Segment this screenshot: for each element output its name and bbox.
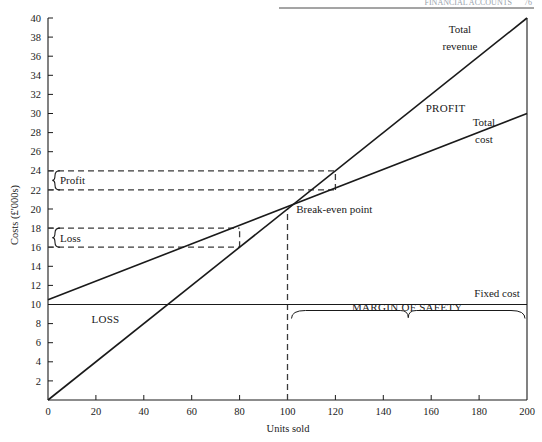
break-even-point-label: Break-even point — [296, 203, 372, 215]
y-tick-label: 16 — [31, 242, 42, 253]
y-tick-label: 24 — [31, 165, 42, 176]
y-tick-label: 30 — [31, 108, 42, 119]
y-tick-label: 12 — [31, 280, 42, 291]
x-tick-label: 120 — [328, 406, 344, 417]
y-tick-label: 2 — [36, 376, 41, 387]
x-tick-label: 60 — [186, 406, 197, 417]
x-tick-label: 40 — [139, 406, 150, 417]
loss-region-label: LOSS — [91, 313, 119, 325]
margin-of-safety-label: MARGIN OF SAFETY — [352, 301, 463, 313]
profit-region-label: PROFIT — [426, 102, 466, 114]
y-tick-label: 8 — [36, 318, 41, 329]
header-page-number: 76 — [524, 0, 532, 7]
x-tick-label: 20 — [91, 406, 102, 417]
break-even-chart: FINANCIAL ACCOUNTS 76 246810121416182022… — [0, 0, 542, 442]
total-revenue-label-line2: revenue — [443, 40, 478, 52]
y-tick-label: 10 — [31, 299, 42, 310]
y-tick-label: 22 — [31, 185, 42, 196]
y-tick-label: 14 — [31, 261, 42, 272]
loss-bracket-label: Loss — [60, 232, 81, 244]
y-tick-label: 4 — [36, 356, 42, 367]
x-tick-label: 140 — [375, 406, 391, 417]
x-tick-label: 160 — [423, 406, 439, 417]
total-cost-label-line2: cost — [475, 133, 493, 145]
y-tick-label: 26 — [31, 146, 42, 157]
total-cost-label-line1: Total — [473, 116, 495, 128]
header-running-title: FINANCIAL ACCOUNTS — [425, 0, 513, 7]
x-tick-label: 180 — [471, 406, 487, 417]
x-tick-label: 100 — [280, 406, 296, 417]
x-tick-label: 200 — [519, 406, 535, 417]
total-revenue-label-line1: Total — [449, 23, 471, 35]
chart-background — [0, 0, 542, 442]
y-tick-label: 28 — [31, 127, 42, 138]
y-tick-label: 38 — [31, 32, 42, 43]
y-tick-label: 40 — [31, 13, 42, 24]
x-tick-label: 80 — [234, 406, 245, 417]
profit-bracket-label: Profit — [60, 174, 85, 186]
y-tick-label: 32 — [31, 89, 42, 100]
y-tick-label: 6 — [36, 337, 41, 348]
x-axis-title: Units sold — [267, 423, 311, 434]
y-axis-title: Costs (£'000s) — [9, 185, 21, 245]
fixed-cost-label: Fixed cost — [474, 287, 520, 299]
y-tick-label: 36 — [31, 51, 42, 62]
y-tick-label: 18 — [31, 223, 42, 234]
y-tick-label: 34 — [31, 70, 42, 81]
y-tick-label: 20 — [31, 204, 42, 215]
x-tick-label: 0 — [45, 406, 50, 417]
chart-canvas: FINANCIAL ACCOUNTS 76 246810121416182022… — [0, 0, 542, 442]
